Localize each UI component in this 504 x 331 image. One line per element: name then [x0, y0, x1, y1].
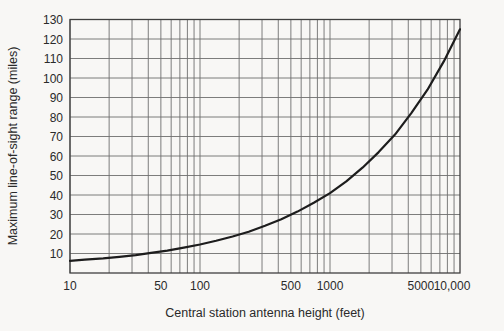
x-tick-label: 5000 — [408, 279, 435, 293]
x-tick-label: 500 — [281, 279, 301, 293]
x-tick-label: 10 — [63, 279, 77, 293]
y-tick-label: 60 — [50, 150, 64, 164]
grid-lines — [70, 20, 460, 274]
y-tick-label: 130 — [43, 13, 63, 27]
chart-canvas: 10501005001000500010,000 102030405060708… — [0, 0, 504, 331]
x-tick-label: 1000 — [317, 279, 344, 293]
plot-frame — [70, 20, 460, 274]
x-tick-label: 50 — [154, 279, 168, 293]
x-axis-tick-labels: 10501005001000500010,000 — [63, 279, 470, 293]
y-tick-label: 120 — [43, 33, 63, 47]
y-tick-label: 110 — [44, 52, 63, 66]
y-tick-label: 30 — [50, 208, 64, 222]
x-axis-title: Central station antenna height (feet) — [165, 306, 364, 320]
x-tick-label: 10,000 — [434, 279, 471, 293]
y-tick-label: 80 — [50, 111, 64, 125]
y-tick-label: 90 — [50, 91, 64, 105]
x-tick-label: 100 — [190, 279, 210, 293]
y-tick-label: 100 — [43, 72, 63, 86]
y-axis-title: Maximum line-of-sight range (miles) — [6, 47, 20, 246]
y-tick-label: 50 — [50, 169, 64, 183]
y-tick-label: 70 — [50, 130, 64, 144]
y-tick-label: 20 — [50, 228, 64, 242]
y-tick-label: 10 — [50, 247, 64, 261]
y-axis-tick-labels: 102030405060708090100110120130 — [43, 13, 63, 261]
line-of-sight-range-chart: 10501005001000500010,000 102030405060708… — [0, 0, 504, 331]
range-curve — [70, 29, 460, 261]
y-tick-label: 40 — [50, 189, 64, 203]
